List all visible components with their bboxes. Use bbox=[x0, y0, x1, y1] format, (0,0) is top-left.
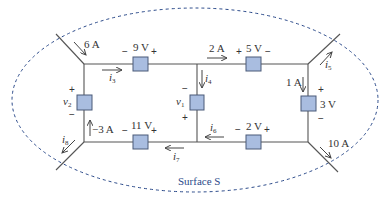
element-v2 bbox=[77, 95, 92, 110]
element-5v-minus: − bbox=[265, 46, 271, 57]
element-2v bbox=[246, 135, 261, 149]
element-11v-minus: − bbox=[122, 125, 128, 136]
element-v1-minus: − bbox=[182, 83, 188, 94]
element-5v bbox=[246, 57, 261, 71]
current-6a-label: 6 A bbox=[84, 38, 100, 50]
element-v2-minus: − bbox=[69, 109, 75, 120]
element-11v-plus: + bbox=[151, 125, 157, 136]
element-9v bbox=[133, 57, 148, 71]
current-i8-label: i8 bbox=[62, 133, 69, 147]
element-3v-minus: − bbox=[318, 113, 324, 124]
surface-s-label: Surface S bbox=[178, 175, 220, 187]
element-11v bbox=[133, 135, 148, 149]
circuit-diagram: Surface S − 9 V + + 5 V − + 3 V − − v1 +… bbox=[0, 0, 391, 201]
current-1a-label: 1 A bbox=[286, 76, 302, 88]
element-v2-label: v2 bbox=[63, 95, 72, 109]
current-2a-label: 2 A bbox=[209, 42, 225, 54]
element-v2-plus: + bbox=[69, 84, 75, 95]
element-3v-label: 3 V bbox=[320, 98, 336, 110]
element-5v-label: 5 V bbox=[246, 42, 262, 54]
element-2v-label: 2 V bbox=[246, 120, 262, 132]
element-9v-plus: + bbox=[151, 46, 157, 57]
element-v1-label: v1 bbox=[176, 95, 185, 109]
element-9v-minus: − bbox=[122, 46, 128, 57]
element-2v-minus: − bbox=[235, 124, 241, 135]
element-3v bbox=[301, 96, 316, 111]
current-i4-label: i4 bbox=[205, 72, 212, 86]
current-m3a-label: −3 A bbox=[92, 123, 114, 135]
element-9v-label: 9 V bbox=[133, 41, 149, 53]
element-11v-label: 11 V bbox=[131, 119, 152, 131]
current-i6-label: i6 bbox=[210, 121, 217, 135]
current-i3-label: i3 bbox=[109, 71, 116, 85]
element-5v-plus: + bbox=[236, 46, 242, 57]
current-i7-label: i7 bbox=[173, 150, 180, 164]
element-v1 bbox=[190, 95, 204, 110]
element-2v-plus: + bbox=[264, 124, 270, 135]
current-i5-label: i5 bbox=[325, 58, 332, 72]
current-10a-label: 10 A bbox=[328, 137, 349, 149]
element-v1-plus: + bbox=[182, 112, 188, 123]
element-3v-plus: + bbox=[318, 84, 324, 95]
